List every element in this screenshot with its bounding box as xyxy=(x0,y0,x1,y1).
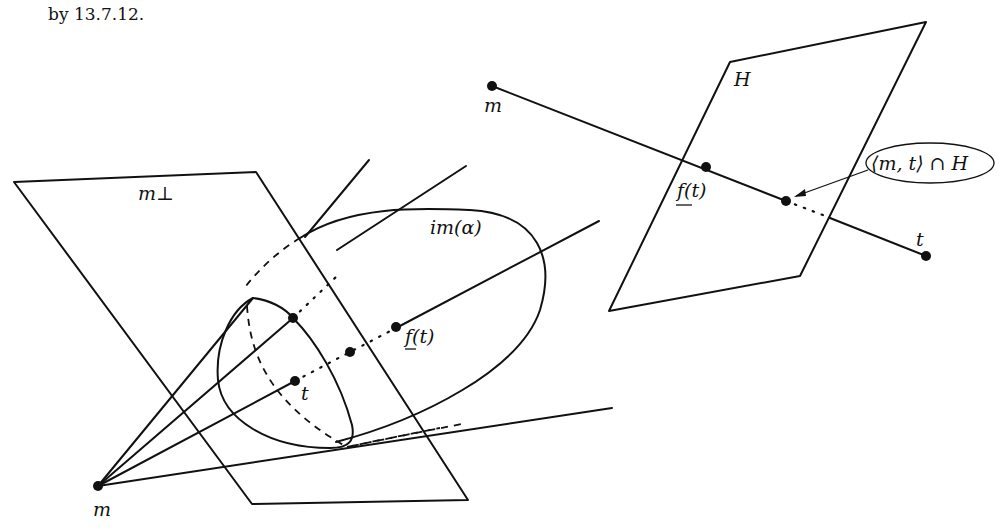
label-H: H xyxy=(733,68,751,90)
label-m-perp: m⊥ xyxy=(138,182,174,204)
label-f-t: f(t) xyxy=(403,325,435,347)
point-t xyxy=(290,376,300,386)
right-figure: H m f(t) t ⟨m, t⟩ ∩ H xyxy=(484,22,994,311)
point-intersection xyxy=(781,196,791,206)
section-ellipse-top xyxy=(253,298,293,318)
annotation-arrow xyxy=(796,170,868,196)
line-m-t-back xyxy=(830,218,926,256)
left-figure: m⊥ im(α) m t f(t) xyxy=(14,160,612,520)
point-mid xyxy=(345,347,355,357)
section-ellipse-hidden xyxy=(247,306,345,446)
label-m: m xyxy=(93,498,111,520)
label-m-right: m xyxy=(484,94,502,116)
ray-f-t xyxy=(398,221,599,327)
point-section-top xyxy=(288,313,298,323)
point-m-right xyxy=(487,81,497,91)
point-t-right xyxy=(921,251,931,261)
ray-upper-1 xyxy=(305,160,369,237)
ellipse-im-alpha-hidden xyxy=(246,238,300,286)
diagram-canvas: m⊥ im(α) m t f(t) H m f(t) t ⟨m, t⟩ ∩ H xyxy=(0,0,1004,532)
section-ellipse xyxy=(218,298,353,448)
annotation-text: ⟨m, t⟩ ∩ H xyxy=(871,152,969,174)
label-f-t-right: f(t) xyxy=(675,179,707,201)
label-t-right: t xyxy=(916,228,924,250)
dotted-upper xyxy=(293,277,336,318)
point-m xyxy=(93,481,103,491)
label-t: t xyxy=(301,382,309,404)
line-m-t-front xyxy=(492,86,786,201)
point-f-t xyxy=(391,322,401,332)
arrowhead-icon xyxy=(794,189,806,197)
label-im-alpha: im(α) xyxy=(430,216,482,238)
plane-m-perp xyxy=(14,172,468,504)
point-f-t-right xyxy=(701,162,711,172)
line-m-t-hidden xyxy=(786,201,828,217)
hidden-generator xyxy=(352,424,462,446)
